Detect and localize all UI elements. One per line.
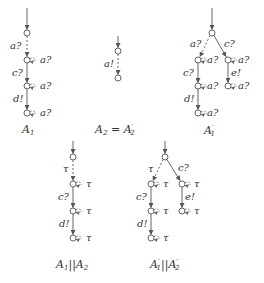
diagram-canvas: a? a? c? a? d! a? A1 a! A2 = A′2 a? c? [0, 0, 264, 283]
self-loop-label: τ [86, 178, 92, 189]
state-node [148, 208, 154, 214]
transition-label: a? [10, 40, 22, 51]
state-node [195, 57, 201, 63]
state-node [24, 57, 30, 63]
self-loop-label: τ [163, 232, 169, 243]
self-loop-label: τ [194, 205, 200, 216]
self-loop-edge [154, 236, 159, 240]
transition-label: τ [148, 163, 154, 174]
transition-label: c? [58, 191, 70, 202]
state-node [70, 181, 76, 187]
self-loop-edge [185, 182, 190, 186]
self-loop-edge [231, 58, 236, 62]
transition-label: c? [12, 67, 24, 78]
transition-label: d! [184, 93, 194, 104]
self-loop-label: a? [207, 54, 219, 65]
self-loop-edge [154, 209, 159, 213]
state-node [70, 154, 76, 160]
state-node [179, 181, 185, 187]
state-node [24, 30, 30, 36]
self-loop-label: τ [194, 178, 200, 189]
self-loop-edge [201, 58, 206, 62]
transition-label: d! [137, 218, 147, 229]
automaton-a1-prime-parallel-a2-prime: τ c? τ c? τ d! τ τ e! τ A′1||A′2 [136, 141, 200, 272]
transition-label: a? [190, 38, 202, 49]
self-loop-edge [30, 111, 35, 115]
state-node [225, 83, 231, 89]
automaton-a1-parallel-a2: τ τ c? τ d! τ A1||A2 [55, 141, 92, 272]
self-loop-edge [76, 182, 81, 186]
transition-label: e! [231, 67, 241, 78]
state-node [195, 110, 201, 116]
self-loop-label: τ [86, 205, 92, 216]
automaton-caption: A1||A2 [55, 258, 89, 272]
automaton-a1-prime: a? c? a? c? a? d! a? a? e! a? A′1 [183, 8, 250, 138]
self-loop-edge [201, 84, 206, 88]
state-node [70, 235, 76, 241]
self-loop-label: τ [86, 232, 92, 243]
state-node [24, 83, 30, 89]
transition-label: τ [63, 163, 69, 174]
state-node [70, 208, 76, 214]
self-loop-edge [154, 182, 159, 186]
state-node [209, 30, 215, 36]
automaton-a1: a? a? c? a? d! a? A1 [10, 8, 52, 137]
self-loop-label: τ [163, 178, 169, 189]
state-node [179, 208, 185, 214]
state-node [115, 48, 121, 54]
transition-label: d! [13, 93, 23, 104]
transition-label: d! [59, 218, 69, 229]
transition-edge [153, 160, 163, 181]
automaton-a2: a! A2 = A′2 [94, 36, 135, 137]
self-loop-label: a? [207, 80, 219, 91]
self-loop-label: a? [238, 80, 250, 91]
state-node [148, 235, 154, 241]
state-node [225, 57, 231, 63]
self-loop-label: a? [40, 54, 52, 65]
self-loop-label: a? [40, 80, 52, 91]
transition-label: c? [178, 162, 190, 173]
self-loop-edge [231, 84, 236, 88]
automaton-caption: A′1 [203, 124, 215, 138]
transition-label: e! [185, 191, 195, 202]
automata-diagram: a? a? c? a? d! a? A1 a! A2 = A′2 a? c? [0, 0, 264, 283]
self-loop-edge [76, 236, 81, 240]
transition-label: c? [183, 67, 195, 78]
automaton-caption: A1 [21, 123, 34, 137]
self-loop-edge [30, 84, 35, 88]
self-loop-edge [201, 111, 206, 115]
state-node [162, 154, 168, 160]
self-loop-edge [76, 209, 81, 213]
self-loop-label: a? [40, 107, 52, 118]
self-loop-edge [185, 209, 190, 213]
automaton-caption: A′1||A′2 [149, 258, 180, 272]
state-node [24, 110, 30, 116]
self-loop-label: τ [163, 205, 169, 216]
transition-label: c? [224, 38, 236, 49]
automaton-caption: A2 = A′2 [94, 123, 135, 137]
transition-label: a! [104, 58, 114, 69]
state-node [115, 75, 121, 81]
transition-label: c? [136, 191, 148, 202]
self-loop-label: a? [238, 54, 250, 65]
self-loop-edge [30, 58, 35, 62]
state-node [148, 181, 154, 187]
self-loop-label: a? [207, 107, 219, 118]
state-node [195, 83, 201, 89]
